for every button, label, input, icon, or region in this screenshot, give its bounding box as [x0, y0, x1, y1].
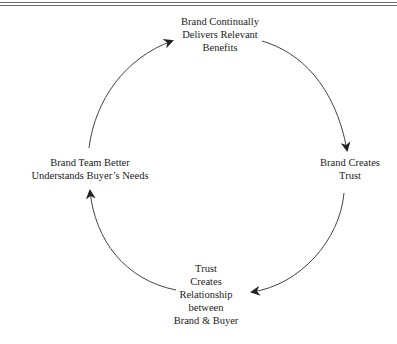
node-text: Trust	[305, 169, 395, 182]
node-text: Creates	[166, 275, 246, 288]
node-text: Brand Team Better	[20, 156, 160, 169]
node-text: Relationship	[166, 288, 246, 301]
node-text: Brand Creates	[305, 156, 395, 169]
node-text: Brand & Buyer	[166, 314, 246, 327]
node-text: Brand Continually	[170, 15, 270, 28]
arrow-bottom-to-left	[90, 191, 176, 290]
node-text: between	[166, 301, 246, 314]
node-text: Understands Buyer’s Needs	[20, 169, 160, 182]
arrow-top-to-right	[262, 41, 347, 150]
node-brand-delivers-benefits: Brand Continually Delivers Relevant Bene…	[170, 15, 270, 54]
node-text: Benefits	[170, 41, 270, 54]
node-brand-creates-trust: Brand Creates Trust	[305, 156, 395, 182]
node-text: Trust	[166, 262, 246, 275]
node-brand-team-understands-needs: Brand Team Better Understands Buyer’s Ne…	[20, 156, 160, 182]
node-text: Delivers Relevant	[170, 28, 270, 41]
node-trust-creates-relationship: Trust Creates Relationship between Brand…	[166, 262, 246, 327]
arrow-right-to-bottom	[252, 193, 344, 292]
arrow-left-to-top	[89, 41, 172, 148]
